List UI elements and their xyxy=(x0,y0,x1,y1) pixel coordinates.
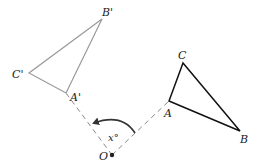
label-c-prime: C' xyxy=(12,68,23,81)
label-o: O xyxy=(99,150,108,163)
rotation-arc-arrow xyxy=(94,120,135,133)
triangle-abc xyxy=(169,63,240,131)
rotation-diagram: O x° A B C A' B' C' xyxy=(0,0,262,168)
label-c: C xyxy=(178,49,187,62)
label-b-prime: B' xyxy=(101,6,113,19)
label-angle-x: x° xyxy=(108,132,119,143)
center-point-o xyxy=(110,153,114,157)
ray-o-to-a xyxy=(112,101,169,155)
label-a: A xyxy=(163,107,172,120)
triangle-a-prime-b-prime-c-prime xyxy=(29,19,102,93)
label-a-prime: A' xyxy=(69,91,81,104)
label-b: B xyxy=(239,133,248,146)
